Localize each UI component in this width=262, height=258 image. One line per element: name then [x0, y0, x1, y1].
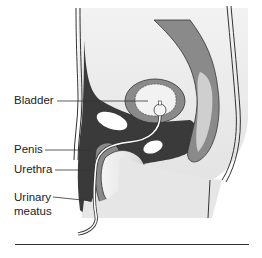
anatomy-diagram — [0, 0, 262, 258]
label-urinary-meatus-1: Urinary — [14, 191, 51, 204]
label-penis: Penis — [14, 143, 43, 156]
label-urinary-meatus-2: meatus — [14, 205, 52, 218]
label-bladder: Bladder — [14, 94, 54, 107]
label-urethra: Urethra — [14, 163, 52, 176]
bottom-divider — [15, 244, 249, 245]
